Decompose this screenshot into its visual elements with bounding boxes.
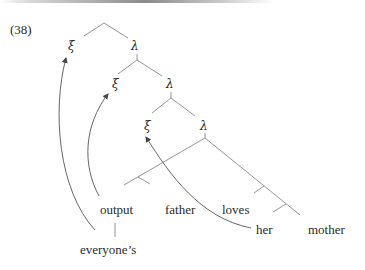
lambda-node-3: λ bbox=[199, 119, 208, 133]
lambda-node-1: λ bbox=[130, 39, 139, 53]
leaf-loves: loves bbox=[222, 202, 249, 217]
leaf-her: her bbox=[256, 222, 273, 237]
xi-node-1: ξ bbox=[68, 39, 76, 53]
lambda-node-2: λ bbox=[165, 77, 174, 91]
xi-node-3: ξ bbox=[144, 119, 152, 133]
arrow-everyones-to-xi1 bbox=[59, 58, 95, 230]
leaf-father: father bbox=[165, 202, 196, 217]
arrow-output-to-xi2 bbox=[88, 94, 108, 196]
leaf-output: output bbox=[100, 202, 134, 217]
xi-node-2: ξ bbox=[112, 77, 120, 91]
leaf-mother: mother bbox=[308, 222, 345, 237]
syntax-tree-diagram: (38) ξ λ ξ λ ξ λ output father loves bbox=[0, 0, 365, 270]
example-number: (38) bbox=[10, 22, 32, 37]
leaf-everyones: everyone’s bbox=[80, 242, 136, 257]
